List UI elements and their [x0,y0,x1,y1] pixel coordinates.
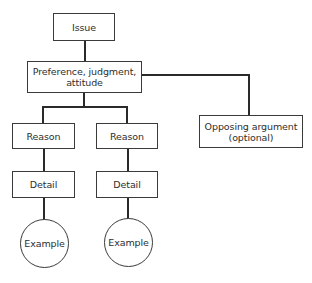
node-detail-2-label: Detail [113,179,140,190]
node-issue-label: Issue [72,22,96,33]
node-preference-label-line1: Preference, judgment, [33,66,136,77]
node-detail-1: Detail [12,171,75,198]
node-opposing-label-line2: (optional) [229,132,274,143]
node-example-1: Example [20,219,69,268]
node-reason-1: Reason [12,123,75,149]
node-opposing-label-line1: Opposing argument [205,121,298,132]
node-example-1-label: Example [24,238,65,249]
argument-structure-diagram: Issue Preference, judgment, attitude Opp… [0,0,312,283]
node-example-2-label: Example [108,237,149,248]
node-opposing-argument: Opposing argument (optional) [199,115,303,148]
node-issue: Issue [53,13,115,41]
node-reason-2-label: Reason [110,131,144,142]
node-example-2: Example [104,218,153,267]
node-preference-label-line2: attitude [66,77,103,88]
node-preference: Preference, judgment, attitude [27,61,142,93]
node-detail-1-label: Detail [30,179,57,190]
node-reason-1-label: Reason [26,131,60,142]
edge-preference-opposing [142,75,249,115]
node-detail-2: Detail [96,171,158,198]
node-reason-2: Reason [96,123,158,149]
